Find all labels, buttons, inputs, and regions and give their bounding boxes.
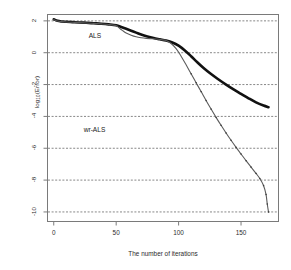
series-marker bbox=[235, 147, 236, 148]
x-tick-label-0: 0 bbox=[42, 229, 66, 236]
series-marker bbox=[268, 211, 269, 212]
series-marker bbox=[245, 160, 246, 161]
series-line-wr-als bbox=[54, 20, 269, 212]
series-marker bbox=[265, 194, 266, 195]
series-marker bbox=[225, 132, 226, 133]
grid-lines bbox=[48, 21, 278, 212]
chart-canvas: log10(Error) The number of iterations 20… bbox=[0, 0, 291, 270]
series-marker bbox=[255, 173, 256, 174]
series-group bbox=[54, 19, 269, 212]
y-tick-label--10: -10 bbox=[29, 200, 36, 222]
y-tick-label--8: -8 bbox=[29, 169, 36, 191]
series-marker bbox=[250, 166, 251, 167]
series-marker bbox=[210, 108, 211, 109]
y-tick-label-0: 0 bbox=[29, 41, 36, 63]
y-tick-label--6: -6 bbox=[29, 137, 36, 159]
series-marker bbox=[240, 153, 241, 154]
y-tick-label--2: -2 bbox=[29, 73, 36, 95]
series-marker bbox=[263, 185, 264, 186]
series-marker bbox=[190, 73, 191, 74]
y-tick-label-2: 2 bbox=[29, 9, 36, 31]
annotation-wr-als: wr-ALS bbox=[84, 126, 106, 133]
axis-ticks bbox=[44, 21, 242, 226]
series-marker bbox=[267, 203, 268, 204]
series-marker bbox=[200, 91, 201, 92]
series-line-als bbox=[54, 19, 269, 107]
y-axis-title-subscript: 10 bbox=[36, 94, 41, 99]
x-tick-label-150: 150 bbox=[229, 229, 253, 236]
x-tick-label-100: 100 bbox=[167, 229, 191, 236]
annotation-als: ALS bbox=[89, 32, 101, 39]
series-marker bbox=[195, 82, 196, 83]
series-marker bbox=[220, 125, 221, 126]
x-tick-label-50: 50 bbox=[104, 229, 128, 236]
plot-frame bbox=[48, 15, 279, 222]
y-tick-label--4: -4 bbox=[29, 105, 36, 127]
series-marker bbox=[230, 140, 231, 141]
series-marker bbox=[215, 117, 216, 118]
series-marker bbox=[205, 100, 206, 101]
series-marker bbox=[259, 178, 260, 179]
x-axis-title: The number of iterations bbox=[47, 250, 279, 257]
